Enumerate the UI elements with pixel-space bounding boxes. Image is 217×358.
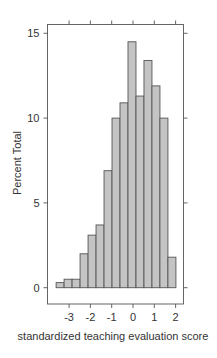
histogram-bar [80,254,88,288]
histogram-bar [128,42,136,288]
x-tick-label: 1 [151,311,157,323]
histogram-bar [104,171,112,288]
histogram-bar [88,235,96,288]
histogram-bar [160,118,168,288]
y-tick-label: 0 [33,282,39,294]
histogram-bar [56,283,64,288]
x-tick-label: -1 [107,311,117,323]
x-axis-label: standardized teaching evaluation score [18,330,209,342]
histogram-bar [72,279,80,287]
histogram-bar [96,225,104,288]
y-tick-label: 15 [27,27,39,39]
histogram-chart: -3-2-1012 051015 Percent Total standardi… [0,0,217,358]
histogram-bars [56,42,176,288]
histogram-bar [168,257,176,288]
histogram-bar [136,96,144,288]
histogram-bar [144,60,152,287]
histogram-bar [120,103,128,288]
x-tick-label: 2 [173,311,179,323]
x-tick-label: -2 [86,311,96,323]
x-tick-label: 0 [130,311,136,323]
x-tick-label: -3 [64,311,74,323]
y-axis-label: Percent Total [11,131,23,195]
y-tick-label: 5 [33,197,39,209]
histogram-bar [64,279,72,287]
y-tick-label: 10 [27,112,39,124]
histogram-bar [152,86,160,288]
histogram-bar [112,118,120,288]
